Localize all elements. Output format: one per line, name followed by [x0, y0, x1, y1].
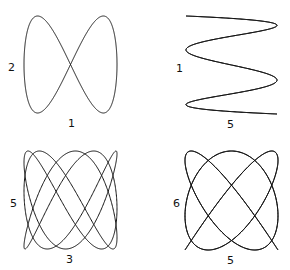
- label-x-freq-2: 5: [227, 119, 234, 130]
- label-y-freq-4: 6: [173, 198, 180, 209]
- lissajous-3-5-curve: [24, 151, 117, 249]
- lissajous-5-1-curve: [186, 16, 277, 114]
- lissajous-5-6-curve: [185, 151, 278, 250]
- label-x-freq-3: 3: [66, 254, 73, 265]
- label-x-freq-4: 5: [227, 255, 234, 266]
- label-y-freq-2: 1: [176, 63, 183, 74]
- label-y-freq-3: 5: [10, 198, 17, 209]
- label-y-freq-1: 2: [8, 62, 15, 73]
- lissajous-diagram: [0, 0, 290, 270]
- lissajous-1-2-curve: [24, 16, 117, 113]
- label-x-freq-1: 1: [68, 118, 75, 129]
